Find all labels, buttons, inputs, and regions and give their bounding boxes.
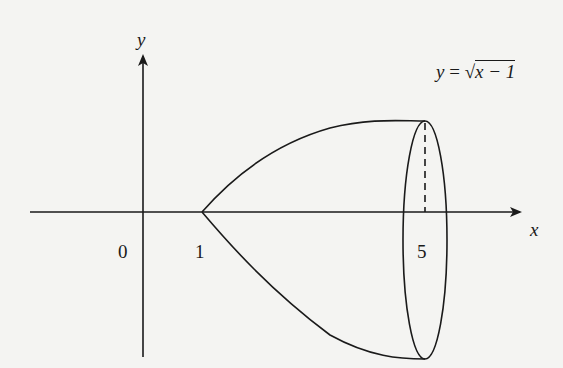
cross-section-ellipse xyxy=(403,121,447,359)
upper-curve xyxy=(202,121,425,212)
diagram-canvas: y x 0 1 5 y = √x − 1 xyxy=(0,0,563,368)
diagram-svg xyxy=(0,0,563,368)
equation-radicand: x − 1 xyxy=(475,60,515,81)
lower-curve xyxy=(202,212,425,359)
equation-lhs: y xyxy=(436,61,444,82)
tick-label-5: 5 xyxy=(417,242,427,261)
y-axis-label: y xyxy=(137,30,145,49)
sqrt-icon: √ xyxy=(465,61,475,82)
origin-label: 0 xyxy=(118,242,128,261)
equation-equals: = xyxy=(449,61,460,82)
curve-equation-label: y = √x − 1 xyxy=(436,60,515,83)
x-axis-label: x xyxy=(530,220,538,239)
tick-label-1: 1 xyxy=(195,242,205,261)
